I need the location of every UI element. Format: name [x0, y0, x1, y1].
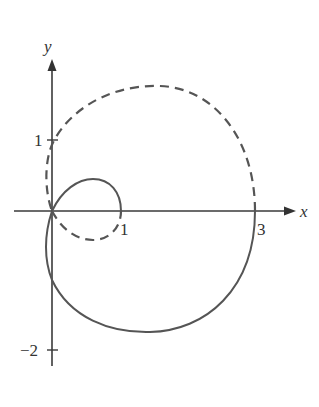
x-tick-label-3: 3: [257, 220, 266, 239]
outer-loop-lower-solid: [46, 211, 255, 332]
y-axis-arrow-icon: [48, 59, 57, 71]
outer-loop-upper-dashed: [46, 86, 255, 211]
polar-curve-figure: x y 1 −2 1 3: [0, 0, 319, 407]
x-axis-arrow-icon: [284, 207, 296, 216]
y-tick-label-neg2: −2: [20, 341, 38, 360]
chart-canvas: x y 1 −2 1 3: [0, 0, 319, 407]
y-axis-label: y: [42, 37, 52, 56]
x-axis-label: x: [299, 202, 308, 221]
inner-loop-upper-solid: [52, 179, 121, 211]
inner-loop-lower-dashed: [52, 211, 121, 240]
y-tick-label-1: 1: [34, 131, 43, 150]
x-tick-label-1: 1: [120, 220, 129, 239]
